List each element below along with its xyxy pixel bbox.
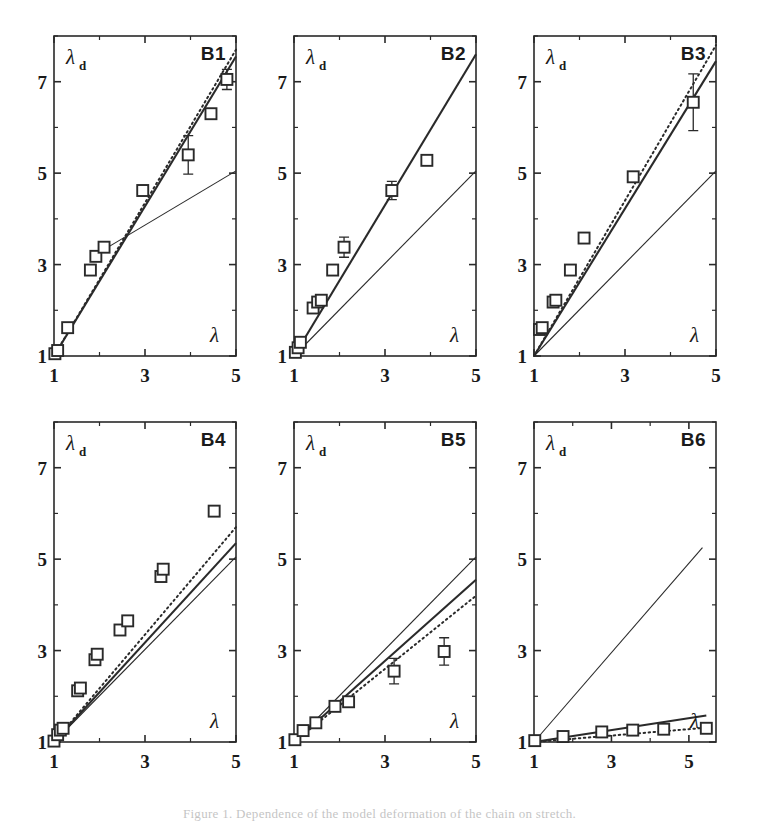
y-tick-label: 3 — [278, 641, 288, 662]
data-point-marker — [565, 265, 576, 276]
x-tick-label: 5 — [471, 365, 481, 386]
y-tick-label: 7 — [278, 72, 288, 93]
y-tick-label: 5 — [278, 163, 288, 184]
y-tick-label: 5 — [278, 549, 288, 570]
data-point-marker — [221, 74, 232, 85]
reference-line — [534, 548, 702, 742]
model-dotted-curve — [54, 527, 236, 742]
y-tick-label: 1 — [518, 346, 528, 367]
reference-line — [534, 171, 716, 356]
y-axis-title-subscript: d — [79, 58, 87, 73]
data-point-marker — [183, 149, 194, 160]
panel-label: B2 — [441, 43, 466, 64]
x-tick-label: 1 — [49, 365, 59, 386]
data-point-marker — [537, 322, 548, 333]
data-point-marker — [329, 701, 340, 712]
reference-line — [294, 171, 476, 356]
y-tick-label: 1 — [38, 732, 48, 753]
plot-b1: 1357135λdλB1 — [18, 22, 248, 402]
x-tick-label: 5 — [231, 365, 241, 386]
x-tick-label: 5 — [471, 751, 481, 772]
data-point-marker — [579, 233, 590, 244]
data-point-marker — [209, 506, 220, 517]
x-axis-title: λ — [209, 323, 219, 347]
x-tick-label: 3 — [140, 365, 150, 386]
plot-b3: 1357135λdλB3 — [498, 22, 728, 402]
panel-label: B1 — [201, 43, 226, 64]
data-point-marker — [529, 735, 540, 746]
plot-b4: 1357135λdλB4 — [18, 408, 248, 788]
y-axis-title-subscript: d — [79, 444, 87, 459]
y-tick-label: 7 — [518, 72, 528, 93]
x-axis-title: λ — [209, 709, 219, 733]
model-solid-curve — [54, 543, 236, 742]
y-tick-label: 7 — [518, 458, 528, 479]
plot-frame — [294, 422, 476, 742]
plot-b2: 1357135λdλB2 — [258, 22, 488, 402]
y-axis-title: λ — [65, 431, 75, 455]
x-axis-title: λ — [449, 709, 459, 733]
y-tick-label: 1 — [518, 732, 528, 753]
panel-b6: 1357135λdλB6 — [498, 408, 728, 788]
data-point-marker — [386, 185, 397, 196]
y-axis-title-subscript: d — [559, 58, 567, 73]
plot-b5: 1357135λdλB5 — [258, 408, 488, 788]
data-point-marker — [92, 649, 103, 660]
data-point-marker — [205, 108, 216, 119]
y-tick-label: 5 — [518, 549, 528, 570]
y-tick-label: 7 — [38, 458, 48, 479]
y-tick-label: 3 — [38, 255, 48, 276]
y-tick-label: 3 — [518, 255, 528, 276]
y-tick-label: 5 — [38, 549, 48, 570]
y-tick-label: 5 — [518, 163, 528, 184]
data-point-marker — [122, 615, 133, 626]
x-tick-label: 5 — [711, 365, 721, 386]
model-solid-curve — [294, 54, 476, 356]
panel-b1: 1357135λdλB1 — [18, 22, 248, 402]
data-point-marker — [75, 683, 86, 694]
y-tick-label: 1 — [278, 732, 288, 753]
data-point-marker — [439, 646, 450, 657]
data-point-marker — [558, 731, 569, 742]
y-tick-label: 1 — [278, 346, 288, 367]
y-tick-label: 1 — [38, 346, 48, 367]
y-tick-label: 5 — [38, 163, 48, 184]
y-axis-title: λ — [545, 431, 555, 455]
data-point-marker — [688, 97, 699, 108]
data-point-marker — [62, 322, 73, 333]
x-axis-title: λ — [449, 323, 459, 347]
data-point-marker — [550, 295, 561, 306]
x-tick-label: 1 — [289, 365, 299, 386]
y-tick-label: 3 — [38, 641, 48, 662]
x-tick-label: 1 — [529, 751, 539, 772]
data-point-marker — [295, 337, 306, 348]
y-tick-label: 3 — [518, 641, 528, 662]
model-solid-curve — [54, 57, 236, 356]
data-point-marker — [596, 726, 607, 737]
reference-line — [102, 171, 236, 251]
x-tick-label: 3 — [140, 751, 150, 772]
data-point-marker — [327, 265, 338, 276]
x-axis-title: λ — [689, 323, 699, 347]
data-point-marker — [58, 723, 69, 734]
panel-b5: 1357135λdλB5 — [258, 408, 488, 788]
panel-label: B3 — [681, 43, 706, 64]
x-tick-label: 1 — [49, 751, 59, 772]
y-axis-title: λ — [65, 45, 75, 69]
data-point-marker — [421, 155, 432, 166]
x-tick-label: 1 — [529, 365, 539, 386]
data-point-marker — [658, 724, 669, 735]
data-point-marker — [99, 242, 110, 253]
panel-b2: 1357135λdλB2 — [258, 22, 488, 402]
model-dotted-curve — [534, 45, 716, 356]
x-tick-label: 3 — [380, 751, 390, 772]
plot-frame — [534, 422, 716, 742]
data-point-marker — [158, 564, 169, 575]
figure-root: 1357135λdλB11357135λdλB21357135λdλB31357… — [0, 0, 759, 827]
figure-caption: Figure 1. Dependence of the model deform… — [0, 806, 759, 827]
reference-line — [54, 557, 236, 742]
data-point-marker — [627, 725, 638, 736]
panel-label: B6 — [681, 429, 706, 450]
y-axis-title-subscript: d — [319, 444, 327, 459]
y-axis-title: λ — [305, 431, 315, 455]
